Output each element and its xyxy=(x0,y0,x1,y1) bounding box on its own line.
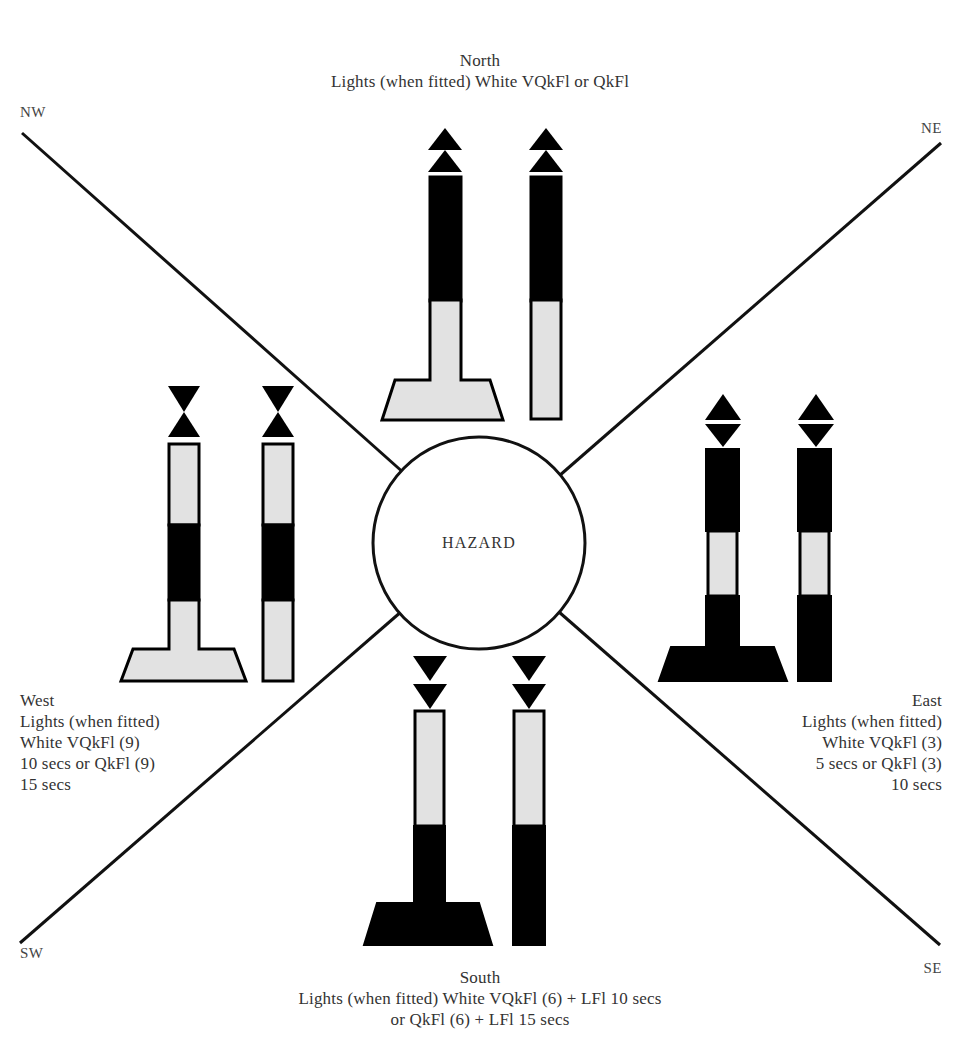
west-light-line-4: 15 secs xyxy=(20,774,160,795)
south-light-line-1: Lights (when fitted) White VQkFl (6) + L… xyxy=(200,988,760,1009)
north-buoy-pillar xyxy=(529,128,563,419)
north-topmark-upper-cone-icon xyxy=(428,128,462,150)
hazard-label: HAZARD xyxy=(379,532,579,553)
line-ne xyxy=(559,143,941,476)
north-topmark-lower-cone-icon xyxy=(428,150,462,172)
west-pillar-upper-cone-icon xyxy=(262,386,294,412)
cardinal-marks-diagram xyxy=(0,0,972,1042)
corner-label-sw: SW xyxy=(20,943,44,964)
east-caption: East Lights (when fitted) White VQkFl (3… xyxy=(700,690,942,795)
south-light-line-2: or QkFl (6) + LFl 15 secs xyxy=(200,1009,760,1030)
north-caption: North Lights (when fitted) White VQkFl o… xyxy=(230,50,730,92)
corner-label-nw: NW xyxy=(20,102,46,123)
west-light-line-2: White VQkFl (9) xyxy=(20,732,160,753)
west-topmark-upper-cone-icon xyxy=(168,386,200,412)
south-caption: South Lights (when fitted) White VQkFl (… xyxy=(200,967,760,1030)
west-topmark-lower-cone-icon xyxy=(168,412,200,437)
west-buoys xyxy=(121,386,294,681)
east-buoy-pillar xyxy=(798,394,834,681)
corner-label-se: SE xyxy=(902,958,942,979)
north-heading: North xyxy=(230,50,730,71)
east-pillar-lower-cone-icon xyxy=(798,424,834,447)
line-nw xyxy=(22,133,405,474)
south-buoy-with-base xyxy=(364,656,492,945)
west-light-line-1: Lights (when fitted) xyxy=(20,711,160,732)
south-topmark-upper-cone-icon xyxy=(413,656,447,681)
north-light-line-1: Lights (when fitted) White VQkFl or QkFl xyxy=(230,71,730,92)
west-caption: West Lights (when fitted) White VQkFl (9… xyxy=(20,690,160,795)
east-pillar-upper-cone-icon xyxy=(798,394,834,420)
west-buoy-with-base xyxy=(121,386,246,681)
south-heading: South xyxy=(200,967,760,988)
north-pillar-upper-cone-icon xyxy=(529,128,563,150)
north-buoy-with-base xyxy=(382,128,503,420)
east-buoys xyxy=(659,394,834,681)
east-light-line-2: White VQkFl (3) xyxy=(700,732,942,753)
east-topmark-upper-cone-icon xyxy=(705,394,741,420)
south-buoys xyxy=(364,656,546,945)
east-light-line-1: Lights (when fitted) xyxy=(700,711,942,732)
west-pillar-lower-cone-icon xyxy=(262,412,294,437)
west-buoy-pillar xyxy=(262,386,294,681)
west-light-line-3: 10 secs or QkFl (9) xyxy=(20,753,160,774)
east-light-line-4: 10 secs xyxy=(700,774,942,795)
east-heading: East xyxy=(700,690,942,711)
north-buoys xyxy=(382,128,563,420)
corner-label-ne: NE xyxy=(902,118,942,139)
north-pillar-lower-cone-icon xyxy=(529,150,563,172)
south-pillar-lower-cone-icon xyxy=(512,684,546,709)
west-heading: West xyxy=(20,690,160,711)
east-topmark-lower-cone-icon xyxy=(705,424,741,447)
east-light-line-3: 5 secs or QkFl (3) xyxy=(700,753,942,774)
south-pillar-upper-cone-icon xyxy=(512,656,546,681)
south-topmark-lower-cone-icon xyxy=(413,684,447,709)
south-buoy-pillar xyxy=(512,656,546,945)
east-buoy-with-base xyxy=(659,394,787,681)
